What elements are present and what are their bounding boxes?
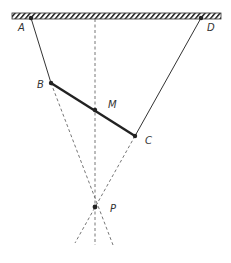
string-AB (31, 18, 51, 83)
point-M (93, 108, 97, 112)
point-D (199, 16, 203, 20)
diagram-canvas: A D B C M P (0, 0, 231, 263)
label-D: D (207, 22, 215, 33)
label-A: A (17, 22, 25, 33)
ceiling-support (12, 13, 221, 19)
extension-line-DC (75, 136, 135, 243)
extension-line-AB (51, 83, 113, 245)
label-C: C (145, 135, 152, 146)
point-B (49, 81, 53, 85)
string-DC (135, 18, 201, 136)
point-A (29, 16, 33, 20)
point-C (133, 134, 137, 138)
label-P: P (110, 203, 117, 214)
point-P (93, 205, 98, 210)
label-B: B (37, 79, 44, 90)
label-M: M (108, 99, 117, 110)
